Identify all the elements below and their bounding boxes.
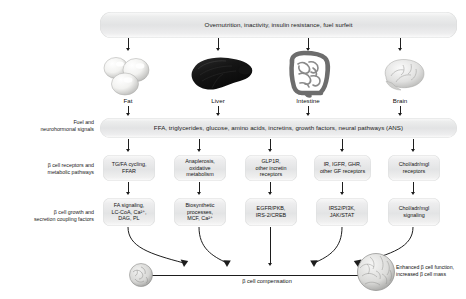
arrow-head-egfr-to-axis (268, 263, 272, 266)
outcome-caption: Enhanced β cell function, increased β ce… (396, 264, 466, 277)
curve-head-biosyn (223, 260, 231, 267)
figure-canvas: Overnutrition, inactivity, insulin resis… (0, 0, 466, 299)
small-islet-icon (128, 262, 154, 288)
large-islet-icon (356, 252, 396, 292)
compensation-axis-label: β cell compensation (225, 278, 309, 284)
curve-head-fa (181, 260, 189, 267)
outcome-caption-line2: increased β cell mass (396, 271, 466, 278)
curve-biosynthetic-to-axis (199, 227, 227, 263)
arrow-line-egfr-to-axis (270, 227, 271, 264)
curve-head-irs2 (310, 260, 318, 267)
compensation-axis-line (146, 275, 368, 276)
curve-irs2-to-axis (314, 227, 342, 263)
convergence-arrows (0, 0, 466, 299)
curve-fa-signaling-to-axis (128, 227, 184, 263)
